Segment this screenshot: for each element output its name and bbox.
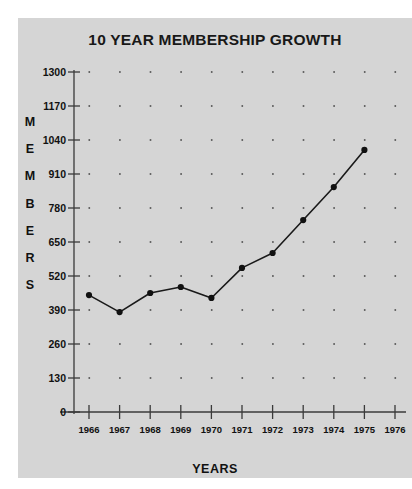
grid-dot — [119, 377, 121, 379]
grid-dot — [364, 71, 366, 73]
x-tick-label: 1973 — [293, 424, 314, 435]
grid-dot — [395, 139, 397, 141]
grid-dot — [242, 275, 244, 277]
plot-area: 0130260390520650780910104011701300 19661… — [18, 18, 412, 478]
grid-dot — [89, 241, 91, 243]
x-tick-label: 1976 — [384, 424, 405, 435]
grid-dot — [119, 105, 121, 107]
grid-dot — [303, 105, 305, 107]
grid-dot — [180, 275, 182, 277]
grid-dot — [395, 309, 397, 311]
grid-dot — [364, 275, 366, 277]
x-tick-label: 1968 — [140, 424, 161, 435]
grid-dot — [303, 173, 305, 175]
grid-dot — [119, 343, 121, 345]
grid-dot — [395, 173, 397, 175]
grid-dot — [89, 309, 91, 311]
grid-dot — [89, 275, 91, 277]
grid-dot — [180, 139, 182, 141]
x-tick-label: 1971 — [231, 424, 252, 435]
grid-dot — [180, 241, 182, 243]
y-axis-title-letter: M — [22, 169, 38, 183]
x-tick-label: 1967 — [109, 424, 130, 435]
grid-dot — [89, 139, 91, 141]
grid-dot — [333, 207, 335, 209]
grid-dot — [333, 343, 335, 345]
grid-dot — [333, 139, 335, 141]
grid-dot — [395, 207, 397, 209]
grid-dot — [272, 309, 274, 311]
grid-dot — [180, 105, 182, 107]
grid-dot — [395, 71, 397, 73]
grid-dot — [333, 241, 335, 243]
grid-dot — [211, 275, 213, 277]
data-point — [147, 290, 153, 296]
grid-dot — [242, 139, 244, 141]
y-tick-label: 130 — [32, 372, 66, 384]
y-tick-label: 260 — [32, 338, 66, 350]
grid-dot — [242, 309, 244, 311]
data-point — [361, 147, 367, 153]
grid-dot — [395, 105, 397, 107]
grid-dot — [89, 377, 91, 379]
y-axis-title-letter: R — [22, 251, 38, 265]
grid-dot — [180, 207, 182, 209]
grid-dot — [364, 105, 366, 107]
grid-dot — [89, 343, 91, 345]
grid-dot — [395, 377, 397, 379]
grid-dot — [119, 139, 121, 141]
grid-dot — [89, 105, 91, 107]
grid-dot — [303, 71, 305, 73]
y-tick-label: 390 — [32, 304, 66, 316]
y-tick-label: 1300 — [32, 66, 66, 78]
data-point — [239, 265, 245, 271]
grid-dot — [272, 207, 274, 209]
chart-figure: 10 YEAR MEMBERSHIP GROWTH 01302603905206… — [18, 18, 412, 478]
grid-dot — [333, 275, 335, 277]
y-axis-title-letter: S — [22, 278, 38, 292]
y-axis-title-letter: E — [22, 142, 38, 156]
grid-dot — [180, 173, 182, 175]
grid-dot — [150, 275, 152, 277]
grid-dot — [180, 343, 182, 345]
grid-dot — [150, 207, 152, 209]
x-tick-label: 1970 — [201, 424, 222, 435]
y-tick-label: 0 — [32, 406, 66, 418]
axis-lines — [60, 70, 406, 414]
data-point — [331, 184, 337, 190]
grid-dot — [272, 241, 274, 243]
grid-dot — [272, 71, 274, 73]
grid-dot — [89, 173, 91, 175]
chart-svg — [18, 18, 412, 478]
grid-dot — [242, 71, 244, 73]
grid-dot — [211, 105, 213, 107]
data-markers — [86, 147, 368, 315]
grid-dot — [364, 173, 366, 175]
grid-dot — [303, 241, 305, 243]
grid-dot — [333, 105, 335, 107]
grid-dot — [395, 241, 397, 243]
grid-dot — [395, 275, 397, 277]
grid-dot — [364, 377, 366, 379]
grid-dot — [150, 105, 152, 107]
data-point — [270, 250, 276, 256]
grid-dot — [333, 173, 335, 175]
grid-dot — [242, 173, 244, 175]
grid-dot — [272, 173, 274, 175]
x-tick-label: 1972 — [262, 424, 283, 435]
grid-dot — [119, 275, 121, 277]
data-point — [117, 309, 123, 315]
grid-dot — [333, 71, 335, 73]
grid-dot — [272, 139, 274, 141]
grid-dot — [211, 173, 213, 175]
grid-dot — [150, 241, 152, 243]
grid-dot — [242, 343, 244, 345]
grid-dot — [211, 139, 213, 141]
grid-dot — [211, 343, 213, 345]
grid-dot — [119, 71, 121, 73]
grid-dot — [364, 309, 366, 311]
grid-dot — [150, 309, 152, 311]
x-axis-title: YEARS — [18, 462, 412, 476]
grid-dot — [211, 309, 213, 311]
data-line — [89, 150, 364, 312]
